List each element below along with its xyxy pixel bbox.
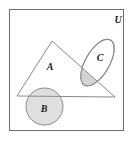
set-b-label: B [40,103,48,114]
set-c-label: C [97,52,104,63]
universe-label: U [114,14,122,25]
set-a-label: A [46,61,54,72]
set-diagram-figure: U A B C [0,0,130,141]
set-diagram-canvas: U A B C [0,0,130,141]
